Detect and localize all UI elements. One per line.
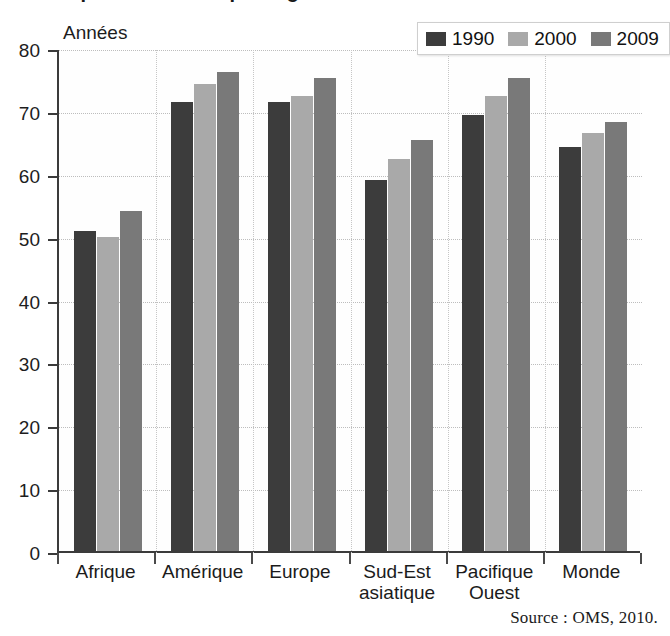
x-axis-label: Europe bbox=[251, 562, 348, 583]
bar bbox=[74, 231, 96, 551]
bar bbox=[508, 78, 530, 551]
y-tick-mark bbox=[48, 113, 57, 115]
y-tick-mark bbox=[48, 490, 57, 492]
legend-item: 1990 bbox=[426, 29, 494, 48]
x-axis-label: PacifiqueOuest bbox=[446, 562, 543, 603]
bar bbox=[120, 211, 142, 551]
y-tick-mark bbox=[48, 427, 57, 429]
gridline-vertical bbox=[253, 50, 254, 553]
y-tick-mark bbox=[48, 176, 57, 178]
bar bbox=[194, 84, 216, 551]
bar bbox=[605, 122, 627, 551]
gridline-vertical bbox=[351, 50, 352, 553]
bar bbox=[171, 102, 193, 551]
bar bbox=[365, 180, 387, 551]
x-axis-label-line1: Amérique bbox=[162, 561, 243, 582]
y-tick-mark bbox=[48, 553, 57, 555]
x-axis-label-line1: Europe bbox=[269, 561, 330, 582]
y-tick-mark bbox=[48, 302, 57, 304]
y-tick-label: 30 bbox=[0, 355, 40, 374]
x-axis-label: Amérique bbox=[154, 562, 251, 583]
x-axis-label: Afrique bbox=[57, 562, 154, 583]
plot-area bbox=[57, 50, 640, 553]
legend-item: 2000 bbox=[508, 29, 576, 48]
x-axis-label-line1: Monde bbox=[562, 561, 620, 582]
x-axis-label: Monde bbox=[543, 562, 640, 583]
source-note: Source : OMS, 2010. bbox=[510, 608, 658, 628]
legend-label: 2009 bbox=[617, 29, 659, 48]
x-axis-label-line1: Sud-Est bbox=[363, 561, 431, 582]
y-tick-label: 40 bbox=[0, 293, 40, 312]
bar bbox=[559, 147, 581, 551]
legend-label: 2000 bbox=[534, 29, 576, 48]
legend-swatch-2000 bbox=[508, 32, 528, 46]
y-tick-label: 50 bbox=[0, 230, 40, 249]
bar bbox=[485, 96, 507, 551]
y-tick-mark bbox=[48, 50, 57, 52]
x-axis-label: Sud-Estasiatique bbox=[349, 562, 446, 603]
y-tick-label: 20 bbox=[0, 418, 40, 437]
legend-label: 1990 bbox=[452, 29, 494, 48]
bar bbox=[388, 159, 410, 551]
gridline-vertical bbox=[156, 50, 157, 553]
y-tick-label: 70 bbox=[0, 104, 40, 123]
bar bbox=[582, 133, 604, 551]
bar bbox=[217, 72, 239, 551]
bar bbox=[411, 140, 433, 551]
x-axis-label-line1: Afrique bbox=[75, 561, 135, 582]
y-tick-label: 10 bbox=[0, 481, 40, 500]
legend-swatch-1990 bbox=[426, 32, 446, 46]
bar bbox=[314, 78, 336, 551]
y-tick-label: 60 bbox=[0, 167, 40, 186]
bar bbox=[268, 102, 290, 551]
bar bbox=[462, 115, 484, 551]
x-axis-label-line2: asiatique bbox=[349, 583, 446, 604]
y-tick-label: 0 bbox=[0, 544, 40, 563]
y-tick-mark bbox=[48, 239, 57, 241]
y-tick-mark bbox=[48, 364, 57, 366]
gridline-vertical bbox=[545, 50, 546, 553]
bar bbox=[291, 96, 313, 551]
legend-swatch-2009 bbox=[591, 32, 611, 46]
legend-item: 2009 bbox=[591, 29, 659, 48]
x-axis-label-line2: Ouest bbox=[446, 583, 543, 604]
y-axis-title: Années bbox=[63, 22, 127, 44]
y-tick-label: 80 bbox=[0, 41, 40, 60]
x-tick-mark bbox=[640, 553, 642, 564]
chart-legend: 199020002009 bbox=[417, 22, 670, 55]
x-axis-label-line1: Pacifique bbox=[455, 561, 533, 582]
bar bbox=[97, 237, 119, 551]
gridline-vertical bbox=[448, 50, 449, 553]
